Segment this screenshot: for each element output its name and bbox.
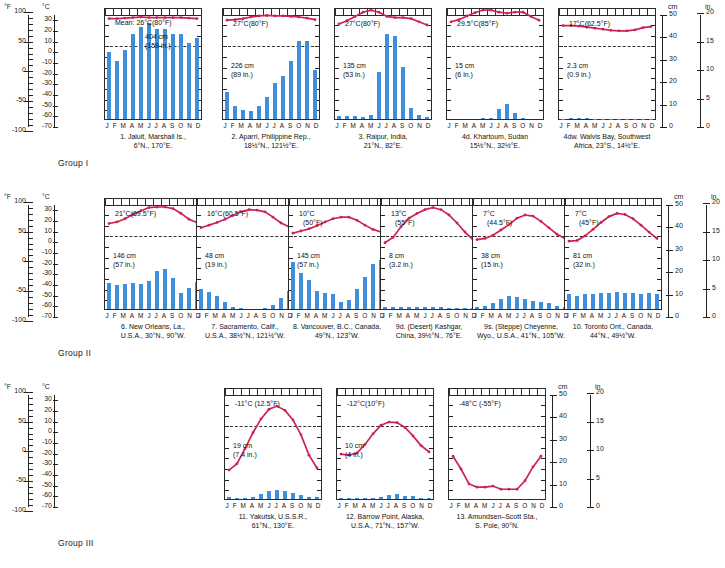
month-label: S: [170, 122, 174, 129]
month-label: F: [343, 122, 347, 129]
month-label: M: [305, 312, 310, 319]
month-label: A: [406, 312, 410, 319]
celsius-tick: [53, 210, 58, 211]
month-label: J: [155, 312, 158, 319]
month-label: A: [254, 312, 258, 319]
month-label: N: [463, 312, 468, 319]
inches-tick-label: 15: [706, 37, 714, 44]
month-label: F: [233, 502, 237, 509]
celsius-tick-label: -50: [30, 101, 52, 108]
month-label: J: [497, 122, 500, 129]
celsius-tick: [53, 20, 58, 21]
month-label: M: [489, 312, 494, 319]
month-label: M: [239, 122, 244, 129]
mean-temperature-label: 16°C(60.5°F): [207, 210, 248, 219]
cm-tick-label: 10: [675, 290, 683, 297]
month-label: F: [113, 312, 117, 319]
annual-precip-in-label: (57 in.): [113, 261, 135, 270]
month-label: S: [262, 312, 266, 319]
month-axis-labels: JFMAMJJASOND: [446, 122, 544, 129]
month-label: M: [322, 312, 327, 319]
plot-area: 21°C(69.5°F)146 cm(57 in.): [104, 198, 202, 310]
month-label: S: [512, 122, 516, 129]
celsius-tick-label: -70: [30, 502, 52, 509]
month-label: J: [387, 502, 390, 509]
celsius-tick-label: -20: [30, 69, 52, 76]
fahrenheit-tick-label: -50: [0, 96, 26, 103]
month-axis-labels: JFMAMJJASOND: [222, 122, 320, 129]
annual-precip-in-label: (3.2 in.): [389, 261, 413, 270]
month-label: F: [231, 122, 235, 129]
month-label: D: [426, 122, 431, 129]
celsius-tick: [53, 400, 58, 401]
celsius-axis-label: °C: [42, 3, 50, 10]
month-label: J: [474, 312, 477, 319]
plot-area: 10°C(50°F)145 cm(57 in.): [288, 198, 386, 310]
fahrenheit-minor-tick: [28, 255, 33, 256]
mean-temperature-label-2: (44.5°F): [487, 219, 512, 228]
celsius-tick: [53, 42, 58, 43]
mean-temperature-label-2: (55°F): [395, 219, 415, 228]
celsius-tick-label: 10: [30, 227, 52, 234]
annual-precip-cm-label: 15 cm: [455, 62, 474, 71]
fahrenheit-tick: [24, 392, 33, 393]
month-label: M: [581, 312, 586, 319]
celsius-axis-label: °C: [42, 383, 50, 390]
month-label: A: [584, 122, 588, 129]
month-label: J: [331, 312, 334, 319]
fahrenheit-minor-tick: [28, 214, 33, 215]
month-label: F: [457, 502, 461, 509]
month-axis-labels: JFMAMJJASOND: [558, 122, 656, 129]
inches-tick-label: 10: [706, 65, 714, 72]
month-label: F: [573, 312, 577, 319]
right-scale-group-1: 5040302010020151050cmin.: [660, 15, 725, 127]
celsius-tick: [53, 106, 58, 107]
cm-tick: [660, 15, 667, 16]
month-label: J: [523, 312, 526, 319]
inches-tick: [697, 42, 704, 43]
cm-tick-label: 30: [675, 245, 683, 252]
month-label: M: [482, 502, 487, 509]
left-scale-group-3: 100500-50-1003020100-10-20-30-40-50-60-7…: [2, 395, 62, 507]
month-label: O: [296, 122, 301, 129]
celsius-tick: [53, 306, 58, 307]
celsius-tick-label: -50: [30, 481, 52, 488]
panel-caption-line1: 12. Barrow Point, Alaska,: [322, 512, 448, 521]
fahrenheit-minor-tick: [28, 457, 33, 458]
month-label: M: [241, 502, 246, 509]
celsius-tick: [53, 253, 58, 254]
annual-precip-in-label: (89 in.): [231, 71, 253, 80]
month-label: D: [540, 502, 545, 509]
month-label: O: [298, 502, 303, 509]
annual-precip-cm-label: 38 cm: [481, 252, 500, 261]
inches-tick: [703, 289, 710, 290]
annual-precip-cm-label: 8 cm: [389, 252, 404, 261]
plot-area: -12°C(10°F)10 cm(4 in.): [336, 388, 434, 500]
month-label: F: [345, 502, 349, 509]
month-label: J: [382, 312, 385, 319]
month-label: A: [346, 312, 350, 319]
celsius-tick: [53, 496, 58, 497]
month-label: F: [481, 312, 485, 319]
celsius-tick-label: 10: [30, 417, 52, 424]
month-label: J: [499, 502, 502, 509]
month-label: M: [575, 122, 580, 129]
celsius-tick: [53, 31, 58, 32]
celsius-tick: [53, 411, 58, 412]
cm-tick-label: 20: [669, 77, 677, 84]
cm-tick: [666, 205, 673, 206]
month-label: O: [454, 312, 459, 319]
cm-tick-label: 50: [669, 10, 677, 17]
fahrenheit-axis-label: °F: [4, 3, 11, 10]
fahrenheit-tick-label: 50: [0, 417, 26, 424]
month-label: S: [400, 122, 404, 129]
month-label: J: [275, 502, 278, 509]
cm-axis-label: cm: [558, 383, 567, 390]
annual-precip-cm-label: 10 cm: [345, 442, 364, 451]
month-axis-labels: JFMAMJJASOND: [336, 502, 434, 509]
celsius-tick: [53, 127, 58, 128]
month-label: J: [423, 312, 426, 319]
month-label: S: [402, 502, 406, 509]
inches-tick: [703, 260, 710, 261]
month-label: J: [247, 312, 250, 319]
